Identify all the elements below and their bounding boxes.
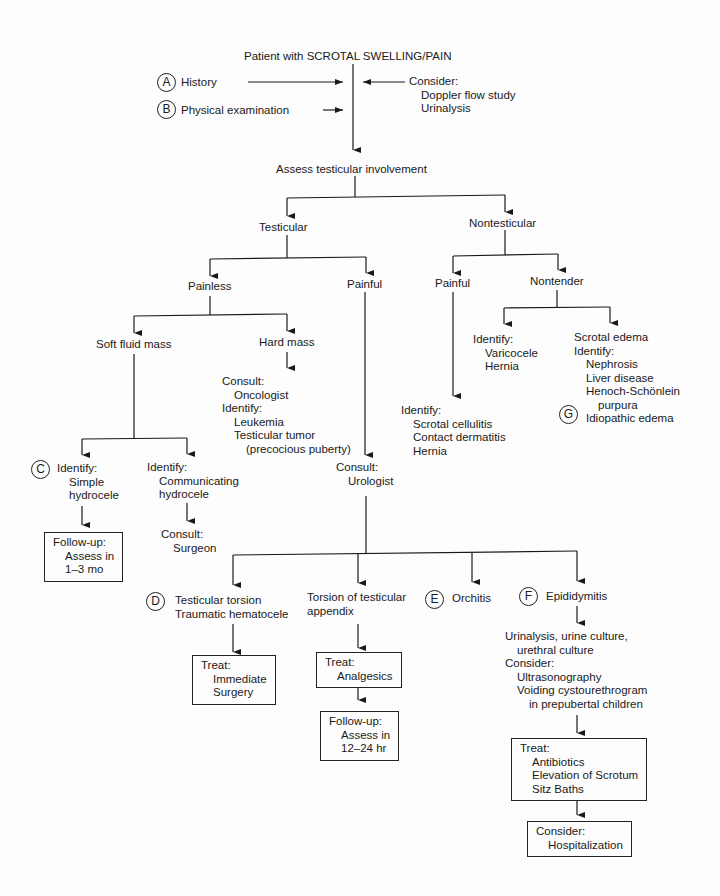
nontender-identify-right: Scrotal edema Identify: Nephrosis Liver …	[574, 331, 680, 426]
consider-box-hospitalization: Consider: Hospitalization	[527, 821, 632, 857]
torsion-appendix-node: Torsion of testicular appendix	[307, 591, 406, 618]
treat-box-analgesics: Treat: Analgesics	[316, 652, 402, 688]
treat-box-surgery: Treat: Immediate Surgery	[192, 655, 276, 705]
title-node: Patient with SCROTAL SWELLING/PAIN	[244, 50, 452, 64]
testicular-painful-label: Painful	[347, 278, 382, 290]
treat-heading: Treat:	[201, 659, 267, 673]
consult-urologist-node: Consult: Urologist	[336, 461, 393, 488]
treat-box-epididymitis: Treat: Antibiotics Elevation of Scrotum …	[511, 738, 647, 801]
consider-heading: Consider:	[505, 657, 647, 671]
nontesticular-node: Nontesticular	[469, 217, 536, 231]
nontender-node: Nontender	[530, 275, 584, 289]
diagnosis-item: Testicular torsion	[175, 594, 288, 608]
identify-item: Liver disease	[574, 372, 680, 386]
nontesticular-painful-identify: Identify: Scrotal cellulitis Contact der…	[401, 404, 506, 458]
nontesticular-label: Nontesticular	[469, 217, 536, 229]
hard-mass-label: Hard mass	[259, 336, 315, 348]
identify-item: Communicating	[147, 475, 239, 489]
consult-item: Surgeon	[161, 542, 216, 556]
testicular-label: Testicular	[259, 221, 308, 233]
painless-label: Painless	[188, 280, 231, 292]
followup-item: 12–24 hr	[329, 742, 390, 756]
consider-item: Urinalysis	[409, 102, 516, 116]
identify-heading: Identify:	[401, 404, 506, 418]
consult-item: Urologist	[336, 475, 393, 489]
history-label: History	[181, 76, 217, 88]
consider-tests-node: Consider: Doppler flow study Urinalysis	[409, 75, 516, 116]
nontesticular-painful-node: Painful	[435, 277, 470, 291]
diagnosis-item: appendix	[307, 605, 406, 619]
treat-heading: Treat:	[520, 742, 638, 756]
identify-item: hydrocele	[147, 488, 239, 502]
followup-item: Assess in	[53, 550, 114, 564]
workup-item: Urinalysis, urine culture,	[505, 630, 647, 644]
followup-heading: Follow-up:	[53, 536, 114, 550]
identify-heading: Identify:	[57, 462, 119, 476]
workup-item: urethral culture	[505, 644, 647, 658]
identify-item: Hernia	[473, 360, 538, 374]
identify-item: Nephrosis	[574, 358, 680, 372]
identify-item: Idiopathic edema	[574, 412, 680, 426]
followup-heading: Follow-up:	[329, 715, 390, 729]
physical-exam-node: Physical examination	[181, 104, 289, 118]
identify-item: Scrotal cellulitis	[401, 418, 506, 432]
identify-item: Hernia	[401, 445, 506, 459]
soft-fluid-mass-node: Soft fluid mass	[96, 338, 171, 352]
identify-item-cont: purpura	[574, 399, 680, 413]
step-badge-c: C	[31, 460, 50, 479]
identify-heading: Identify:	[473, 333, 538, 347]
consider-item: Hospitalization	[536, 839, 623, 853]
identify-item: Varicocele	[473, 347, 538, 361]
diagnosis-item: Traumatic hematocele	[175, 608, 288, 622]
consider-heading: Consider:	[536, 825, 623, 839]
consider-item: Voiding cystourethrogram	[505, 684, 647, 698]
epididymitis-node: Epididymitis	[546, 590, 607, 604]
consult-heading: Consult:	[222, 375, 351, 389]
consider-heading: Consider:	[409, 75, 516, 89]
scrotal-edema-label: Scrotal edema	[574, 331, 680, 345]
title-text: Patient with SCROTAL SWELLING/PAIN	[244, 50, 452, 62]
assess-label: Assess testicular involvement	[276, 163, 427, 175]
followup-item: 1–3 mo	[53, 563, 114, 577]
treat-heading: Treat:	[325, 656, 393, 670]
treat-item: Analgesics	[325, 670, 393, 684]
simple-hydrocele-node: Identify: Simple hydrocele	[57, 462, 119, 503]
followup-box-hydrocele: Follow-up: Assess in 1–3 mo	[44, 532, 123, 582]
nontender-label: Nontender	[530, 275, 584, 287]
consult-heading: Consult:	[336, 461, 393, 475]
identify-heading: Identify:	[222, 402, 351, 416]
consult-item: Oncologist	[222, 389, 351, 403]
treat-item: Antibiotics	[520, 756, 638, 770]
diagnosis-item: Torsion of testicular	[307, 591, 406, 605]
step-badge-e: E	[425, 590, 444, 609]
treat-item: Immediate	[201, 673, 267, 687]
nontender-identify-left: Identify: Varicocele Hernia	[473, 333, 538, 374]
testicular-torsion-node: Testicular torsion Traumatic hematocele	[175, 594, 288, 621]
identify-note: (precocious puberty)	[222, 443, 351, 457]
nontesticular-painful-label: Painful	[435, 277, 470, 289]
identify-item: Testicular tumor	[222, 429, 351, 443]
epididymitis-label: Epididymitis	[546, 590, 607, 602]
treat-item: Sitz Baths	[520, 783, 638, 797]
step-badge-f: F	[519, 587, 538, 606]
consider-item: Doppler flow study	[409, 89, 516, 103]
consult-heading: Consult:	[161, 528, 216, 542]
communicating-hydrocele-node: Identify: Communicating hydrocele	[147, 461, 239, 502]
followup-item: Assess in	[329, 729, 390, 743]
identify-heading: Identify:	[147, 461, 239, 475]
identify-item: Contact dermatitis	[401, 431, 506, 445]
testicular-node: Testicular	[259, 221, 308, 235]
epididymitis-workup: Urinalysis, urine culture, urethral cult…	[505, 630, 647, 711]
followup-box-appendix: Follow-up: Assess in 12–24 hr	[320, 711, 399, 761]
assess-node: Assess testicular involvement	[276, 163, 427, 177]
consider-note: in prepubertal children	[505, 698, 647, 712]
treat-item: Elevation of Scrotum	[520, 769, 638, 783]
step-badge-a: A	[157, 73, 176, 92]
painless-node: Painless	[188, 280, 231, 294]
physical-exam-label: Physical examination	[181, 104, 289, 116]
orchitis-node: Orchitis	[452, 592, 491, 606]
hard-mass-details: Consult: Oncologist Identify: Leukemia T…	[222, 375, 351, 456]
identify-item: Henoch-Schönlein	[574, 385, 680, 399]
consult-surgeon-node: Consult: Surgeon	[161, 528, 216, 555]
consider-item: Ultrasonography	[505, 671, 647, 685]
